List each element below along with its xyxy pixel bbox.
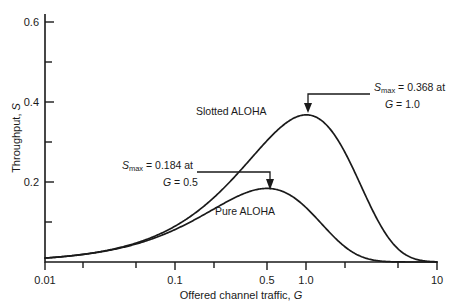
annot-g-value-2: = 0.5 bbox=[171, 176, 198, 188]
annot-g-value: = 1.0 bbox=[393, 98, 420, 110]
x-tick-label-0-1: 0.1 bbox=[167, 274, 182, 286]
x-axis-title-text: Offered channel traffic, bbox=[180, 289, 294, 301]
y-tick-label-0-6: 0.6 bbox=[24, 16, 39, 28]
x-axis-title: Offered channel traffic, G bbox=[180, 289, 303, 301]
annot-max-subscript-2: max bbox=[129, 164, 143, 173]
aloha-throughput-chart: 0.6 0.4 0.2 0.01 0.1 0.5 1.0 10 Offered … bbox=[0, 0, 455, 306]
annotation-slotted-line2: G = 1.0 bbox=[385, 98, 420, 110]
x-tick-label-0-01: 0.01 bbox=[34, 274, 55, 286]
annot-s-symbol: S bbox=[374, 81, 381, 93]
y-axis-title-text: Throughput, bbox=[10, 110, 22, 172]
annot-value-text-2: = 0.184 at bbox=[143, 159, 193, 171]
annot-g-symbol: G bbox=[385, 98, 393, 110]
chart-background bbox=[0, 0, 455, 306]
y-axis-title-symbol: S bbox=[10, 102, 22, 110]
annot-s-symbol-2: S bbox=[122, 159, 129, 171]
annot-value-text: = 0.368 at bbox=[395, 81, 445, 93]
y-tick-label-0-2: 0.2 bbox=[24, 176, 39, 188]
curve-label-slotted-aloha: Slotted ALOHA bbox=[196, 105, 267, 117]
x-axis-title-symbol: G bbox=[294, 289, 303, 301]
curve-label-pure-aloha: Pure ALOHA bbox=[215, 205, 275, 217]
x-tick-label-1-0: 1.0 bbox=[298, 274, 313, 286]
y-axis-title: Throughput, S bbox=[10, 102, 22, 172]
x-tick-label-10: 10 bbox=[431, 274, 443, 286]
annotation-pure-line2: G = 0.5 bbox=[163, 176, 198, 188]
annot-max-subscript: max bbox=[381, 86, 395, 95]
chart-svg: 0.6 0.4 0.2 0.01 0.1 0.5 1.0 10 Offered … bbox=[0, 0, 455, 306]
annot-g-symbol-2: G bbox=[163, 176, 171, 188]
x-tick-label-0-5: 0.5 bbox=[259, 274, 274, 286]
y-tick-label-0-4: 0.4 bbox=[24, 96, 39, 108]
